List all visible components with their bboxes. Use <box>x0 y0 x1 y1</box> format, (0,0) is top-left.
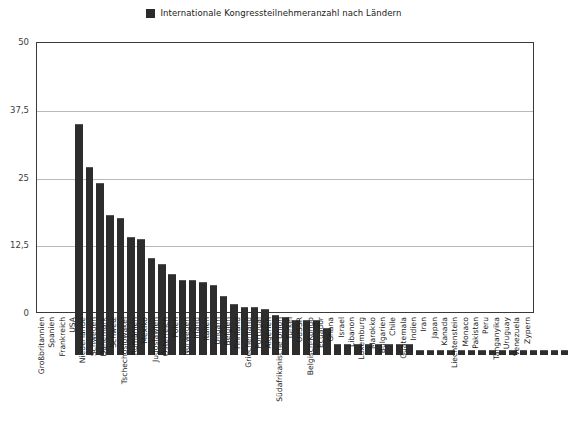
x-axis-label-slot: Griechenland <box>244 315 254 427</box>
x-axis-label-slot: Ghana <box>326 315 336 427</box>
x-axis-label-slot: Polen <box>171 315 181 427</box>
x-axis-tick-label: Monaco <box>462 317 470 347</box>
x-axis-tick-label: Jugoslawien <box>152 317 160 362</box>
bar <box>561 350 568 355</box>
x-axis-label-slot: UdSSR <box>295 315 305 427</box>
x-axis-label-slot: Marokko <box>368 315 378 427</box>
x-axis-label-slot: Libanon <box>347 315 357 427</box>
x-axis-tick-label: Finnland <box>234 317 242 349</box>
x-axis-tick-label: Dänemark <box>100 317 108 357</box>
x-axis-label-slot: Schweden <box>89 315 99 427</box>
x-axis-label-slot: Spanien <box>47 315 57 427</box>
x-axis-label-slot: Israel <box>337 315 347 427</box>
x-axis-tick-label: Chile <box>389 317 397 336</box>
bar <box>540 350 547 355</box>
bar-slot <box>539 86 549 355</box>
x-axis-label-slot: Großbritannien <box>37 315 47 427</box>
x-axis-tick-label: USA <box>69 317 77 333</box>
x-axis-tick-label: Bulgarien <box>379 317 387 353</box>
x-axis-tick-label: Tschechoslowakei <box>121 317 129 384</box>
x-axis-tick-label: Italien <box>203 317 211 341</box>
x-axis-tick-label: Portugal <box>255 317 263 348</box>
x-axis-label-slot: Norwegen <box>182 315 192 427</box>
x-axis-label-slot: Dänemark <box>99 315 109 427</box>
chart-legend: Internationale Kongressteilnehmeranzahl … <box>0 8 547 18</box>
x-axis-label-slot: Ecuador <box>316 315 326 427</box>
x-axis-tick-label: Österreich <box>162 317 170 356</box>
x-axis-tick-label: Norwegen <box>183 317 191 356</box>
x-axis-label-slot: Niederlande <box>78 315 88 427</box>
x-axis-tick-label: Ghana <box>327 317 335 342</box>
x-axis-label-slot: Finnland <box>233 315 243 427</box>
x-axis-label-slot: Schweiz <box>109 315 119 427</box>
x-axis: GroßbritannienSpanienFrankreichUSANieder… <box>37 315 533 427</box>
x-axis-label-slot: Mexiko <box>140 315 150 427</box>
y-axis: 012,52537,550 <box>0 42 34 313</box>
x-axis-label-slot: Südafrikanische Union <box>275 315 285 427</box>
x-axis-label-slot: Kanada <box>440 315 450 427</box>
x-axis-label-slot: Tanganyika <box>491 315 501 427</box>
bar-slot <box>549 86 559 355</box>
plot-area <box>36 42 534 313</box>
x-axis-tick-label: Schweiz <box>110 317 118 348</box>
x-axis-tick-label: Frankreich <box>59 317 67 357</box>
x-axis-tick-label: Algerien <box>265 317 273 349</box>
x-axis-tick-label: Iran <box>420 317 428 332</box>
x-axis-label-slot: Jugoslawien <box>151 315 161 427</box>
x-axis-tick-label: Ecuador <box>317 317 325 348</box>
x-axis-tick-label: Polen <box>172 317 180 338</box>
x-axis-tick-label: UdSSR <box>296 317 304 342</box>
x-axis-tick-label: Schweden <box>90 317 98 356</box>
y-axis-tick-label: 50 <box>18 37 29 47</box>
x-axis-label-slot: Luxemburg <box>357 315 367 427</box>
x-axis-label-slot: USA <box>68 315 78 427</box>
x-axis-tick-label: Zypern <box>524 317 532 344</box>
x-axis-label-slot: Liechtenstein <box>450 315 460 427</box>
x-axis-tick-label: Luxemburg <box>358 317 366 360</box>
y-axis-tick-label: 12,5 <box>10 240 29 250</box>
x-axis-label-slot: Guatemala <box>398 315 408 427</box>
x-axis-label-slot: Portugal <box>254 315 264 427</box>
x-axis-tick-label: Tanganyika <box>493 317 501 360</box>
x-axis-tick-label: Niederlande <box>79 317 87 363</box>
x-axis-tick-label: Ungarn <box>214 317 222 345</box>
x-axis-tick-label: Uruguay <box>503 317 511 349</box>
x-axis-label-slot: Irland <box>192 315 202 427</box>
x-axis-label-slot: Peru <box>481 315 491 427</box>
legend-swatch-icon <box>146 9 155 18</box>
x-axis-label-slot: Chile <box>388 315 398 427</box>
x-axis-tick-label: Indien <box>410 317 418 340</box>
x-axis-label-slot: Österreich <box>161 315 171 427</box>
x-axis-tick-label: Libanon <box>348 317 356 347</box>
x-axis-label-slot: Italien <box>202 315 212 427</box>
x-axis-label-slot: Uruguay <box>502 315 512 427</box>
x-axis-label-slot: Iran <box>419 315 429 427</box>
x-axis-tick-label: Peru <box>482 317 490 334</box>
x-axis-tick-label: Japan <box>431 317 439 338</box>
x-axis-tick-label: Venezuela <box>513 317 521 356</box>
x-axis-label-slot: Algerien <box>264 315 274 427</box>
x-axis-tick-label: Türkei <box>286 317 294 339</box>
x-axis-label-slot: Belgisch-Kongo <box>306 315 316 427</box>
x-axis-label-slot: Tschechoslowakei <box>120 315 130 427</box>
x-axis-tick-label: Belgien <box>224 317 232 345</box>
x-axis-label-slot: Zypern <box>522 315 532 427</box>
x-axis-label-slot: Indien <box>409 315 419 427</box>
x-axis-tick-label: Großbritannien <box>38 317 46 374</box>
x-axis-tick-label: Griechenland <box>245 317 253 368</box>
x-axis-label-slot: Monaco <box>460 315 470 427</box>
x-axis-tick-label: Rumänien <box>131 317 139 355</box>
x-axis-tick-label: Irland <box>193 317 201 339</box>
bar-slot <box>559 86 569 355</box>
x-axis-label-slot: Japan <box>429 315 439 427</box>
x-axis-label-slot: Frankreich <box>58 315 68 427</box>
x-axis-tick-label: Pakistan <box>472 317 480 349</box>
x-axis-label-slot: Venezuela <box>512 315 522 427</box>
x-axis-tick-label: Guatemala <box>400 317 408 359</box>
y-axis-tick-label: 37,5 <box>10 105 29 115</box>
legend-label: Internationale Kongressteilnehmeranzahl … <box>161 8 402 18</box>
x-axis-tick-label: Spanien <box>48 317 56 348</box>
x-axis-tick-label: Südafrikanische Union <box>276 317 284 402</box>
x-axis-label-slot: Rumänien <box>130 315 140 427</box>
